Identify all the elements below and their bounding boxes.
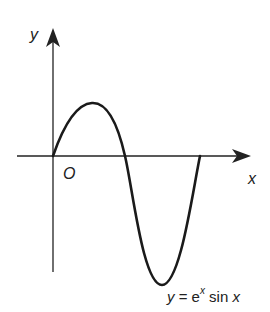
- equation-exponent: x: [200, 285, 205, 296]
- graph-canvas: [0, 0, 270, 312]
- equation-prefix: y: [167, 288, 175, 305]
- equation-var: x: [232, 288, 240, 305]
- x-axis-label: x: [248, 171, 256, 187]
- equation-eq: = e: [175, 288, 200, 305]
- origin-label: O: [63, 166, 75, 182]
- equation-label: y = ex sin x: [167, 288, 240, 304]
- equation-sin: sin: [205, 288, 233, 305]
- y-axis-label: y: [30, 27, 38, 43]
- function-curve: [53, 103, 200, 285]
